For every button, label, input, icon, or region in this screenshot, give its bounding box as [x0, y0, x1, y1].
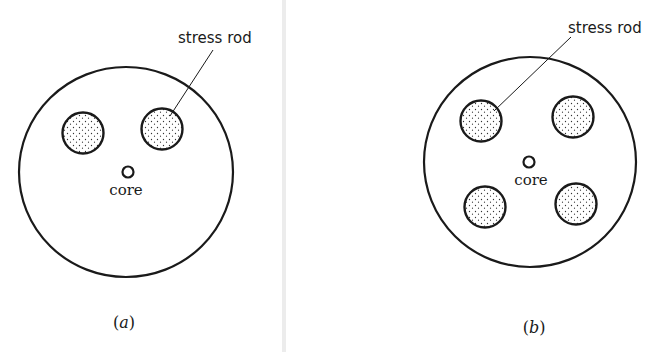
stress-rod [465, 187, 506, 228]
stress-rod-label: stress rod [178, 29, 252, 47]
core-label: core [109, 181, 143, 199]
stress-rod [553, 97, 594, 138]
stress-rod-leader-line [170, 50, 213, 116]
stress-rod [142, 109, 183, 150]
panel-caption: (b) [523, 318, 546, 337]
stress-rod-leader-line [494, 37, 571, 111]
panel-caption: (a) [113, 313, 135, 332]
core-circle [524, 157, 535, 168]
core-circle [123, 167, 134, 178]
stress-rod [63, 113, 104, 154]
stress-rod [461, 101, 502, 142]
stress-rod [556, 184, 597, 225]
core-label: core [514, 171, 548, 189]
fiber-cross-section-figure: core stress rod (a) core stress rod (b) [0, 0, 664, 352]
panel-a: core stress rod (a) [19, 29, 252, 332]
panel-b: core stress rod (b) [424, 19, 642, 337]
stress-rod-label: stress rod [568, 19, 642, 37]
